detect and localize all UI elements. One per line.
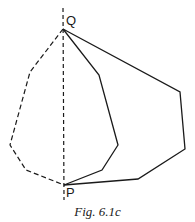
dashed-path-left — [10, 29, 64, 185]
diagram-canvas — [0, 0, 195, 222]
solid-path-inner — [63, 29, 118, 185]
point-label-q: Q — [66, 14, 76, 27]
figure-caption: Fig. 6.1c — [0, 204, 195, 220]
vertical-dashed-axis — [63, 8, 64, 200]
point-label-p: P — [66, 186, 75, 199]
